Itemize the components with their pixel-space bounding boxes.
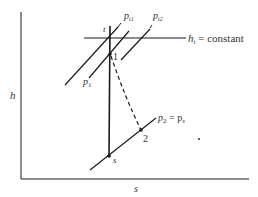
pt1-label: pt1 [123, 10, 134, 22]
point-t-label: t [103, 24, 106, 34]
actual-expansion-curve [111, 56, 141, 130]
point-1-label: 1 [113, 51, 118, 62]
p2-label-eq: = p [167, 112, 183, 123]
stray-dot [198, 138, 200, 140]
x-axis-label: s [134, 183, 138, 194]
pt2-label-sub: t2 [158, 16, 163, 22]
isentropic-line [109, 26, 110, 156]
ht-label-rest: = constant [195, 32, 243, 44]
isobar-pt2-line [121, 29, 150, 60]
p1-label-sub: 1 [88, 81, 92, 89]
ht-constant-label: ht = constant [188, 32, 244, 46]
isobar-pt2-tick [150, 25, 152, 28]
p2-ps-label: p2 = ps [157, 112, 185, 125]
point-2 [139, 128, 143, 132]
hs-diagram: h s t 1 2 s p1 pt1 pt2 ht = constant p2 … [0, 0, 258, 197]
isobar-pt1-tick [118, 23, 121, 27]
p1-label: p1 [82, 76, 92, 89]
point-s [107, 154, 111, 158]
y-axis-label: h [10, 89, 16, 101]
pt2-label: pt2 [152, 10, 163, 22]
point-2-label: 2 [143, 133, 148, 144]
p2-label-eq-sub: s [182, 117, 185, 125]
pt1-label-sub: t1 [129, 16, 134, 22]
point-1 [108, 52, 112, 56]
isobar-p2-line [90, 118, 156, 170]
point-s-label: s [113, 155, 117, 165]
